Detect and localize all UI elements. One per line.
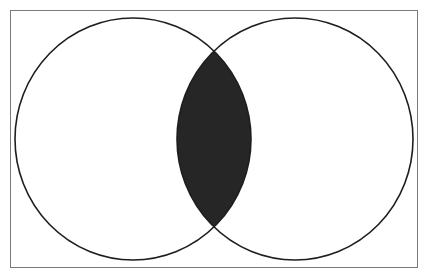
venn-diagram [0,0,426,276]
